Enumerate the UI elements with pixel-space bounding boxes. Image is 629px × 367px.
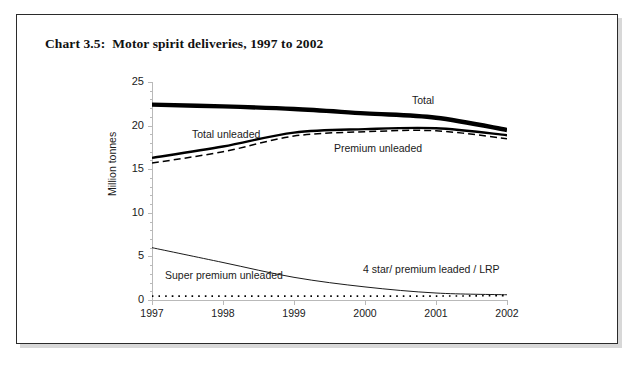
x-tick-label: 2002	[483, 308, 531, 319]
x-tick-label: 2001	[412, 308, 460, 319]
x-tick-label: 1999	[270, 308, 318, 319]
series-label-super-premium-unleaded: Super premium unleaded	[165, 270, 283, 281]
x-tick	[152, 301, 153, 305]
chart-page: Chart 3.5: Motor spirit deliveries, 1997…	[0, 0, 629, 367]
series-label-premium-unleaded: Premium unleaded	[334, 143, 422, 154]
series-total	[152, 105, 507, 130]
y-tick-label: 20	[118, 120, 144, 131]
x-tick-label: 2000	[341, 308, 389, 319]
x-axis-line	[152, 300, 508, 301]
y-axis-title: Million tonnes	[106, 132, 118, 196]
x-tick	[436, 301, 437, 305]
series-label-4-star-premium-leaded-lrp: 4 star/ premium leaded / LRP	[363, 264, 500, 275]
x-tick	[223, 301, 224, 305]
y-tick-label: 5	[118, 250, 144, 261]
y-tick-label: 10	[118, 207, 144, 218]
series-label-total-unleaded: Total unleaded	[192, 129, 260, 140]
x-tick	[365, 301, 366, 305]
series-label-total: Total	[412, 95, 434, 106]
page-title: Chart 3.5: Motor spirit deliveries, 1997…	[45, 36, 323, 52]
y-tick-label: 15	[118, 163, 144, 174]
x-tick	[294, 301, 295, 305]
y-tick-label: 25	[118, 76, 144, 87]
x-tick-label: 1998	[199, 308, 247, 319]
x-tick	[507, 301, 508, 305]
x-tick-label: 1997	[128, 308, 176, 319]
y-tick-label: 0	[118, 294, 144, 305]
